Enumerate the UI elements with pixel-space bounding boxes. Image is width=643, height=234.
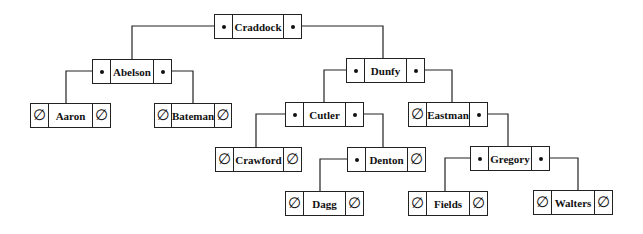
right-pointer-cell (345, 103, 363, 126)
left-pointer-cell (471, 147, 489, 170)
left-pointer-cell (215, 15, 233, 38)
null-pointer-icon: ∅ (156, 108, 169, 123)
tree-node-eastman: ∅Eastman (408, 102, 488, 127)
null-pointer-icon: ∅ (472, 196, 485, 211)
left-pointer-cell: ∅ (534, 191, 552, 214)
tree-node-fields: ∅Fields∅ (408, 191, 488, 216)
left-pointer-cell (93, 60, 111, 83)
tree-node-bateman: ∅Bateman∅ (154, 103, 232, 128)
null-pointer-icon: ∅ (218, 152, 231, 167)
left-pointer-cell: ∅ (286, 192, 304, 215)
right-pointer-cell: ∅ (594, 191, 612, 214)
right-pointer-cell: ∅ (214, 104, 231, 127)
node-key-label: Eastman (427, 103, 469, 126)
node-key-label: Dunfy (365, 59, 406, 82)
pointer-dot-icon (100, 70, 104, 74)
null-pointer-icon: ∅ (411, 196, 424, 211)
right-pointer-cell (153, 60, 171, 83)
left-pointer-cell: ∅ (409, 103, 427, 126)
tree-node-dunfy: Dunfy (346, 58, 425, 83)
tree-node-abelson: Abelson (92, 59, 172, 84)
tree-node-walters: ∅Walters∅ (533, 190, 613, 215)
null-pointer-icon: ∅ (411, 107, 424, 122)
left-pointer-cell: ∅ (155, 104, 172, 127)
null-pointer-icon: ∅ (410, 152, 423, 167)
tree-node-aaron: ∅Aaron∅ (30, 103, 111, 128)
pointer-dot-icon (161, 70, 165, 74)
null-pointer-icon: ∅ (33, 108, 46, 123)
node-key-label: Cutler (304, 103, 345, 126)
null-pointer-icon: ∅ (536, 195, 549, 210)
null-pointer-icon: ∅ (597, 195, 610, 210)
left-pointer-cell (347, 59, 365, 82)
node-key-label: Gregory (489, 147, 531, 170)
pointer-dot-icon (478, 157, 482, 161)
right-pointer-cell: ∅ (283, 148, 301, 171)
right-pointer-cell: ∅ (469, 192, 487, 215)
left-pointer-cell (286, 103, 304, 126)
null-pointer-icon: ∅ (95, 108, 108, 123)
node-key-label: Dagg (304, 192, 345, 215)
left-pointer-cell: ∅ (409, 192, 427, 215)
null-pointer-icon: ∅ (348, 196, 361, 211)
pointer-dot-icon (222, 25, 226, 29)
pointer-dot-icon (293, 113, 297, 117)
node-key-label: Walters (552, 191, 594, 214)
edge-craddock-to-abelson (132, 26, 223, 59)
null-pointer-icon: ∅ (216, 108, 229, 123)
tree-node-crawford: ∅Crawford∅ (215, 147, 302, 172)
tree-node-dagg: ∅Dagg∅ (285, 191, 364, 216)
pointer-dot-icon (414, 69, 418, 73)
pointer-dot-icon (291, 25, 295, 29)
edge-craddock-to-dunfy (293, 26, 383, 58)
right-pointer-cell (469, 103, 487, 126)
null-pointer-icon: ∅ (288, 196, 301, 211)
tree-node-craddock: Craddock (214, 14, 302, 39)
tree-node-denton: Denton∅ (347, 147, 426, 172)
node-key-label: Denton (366, 148, 407, 171)
right-pointer-cell (283, 15, 301, 38)
pointer-dot-icon (539, 157, 543, 161)
pointer-dot-icon (354, 69, 358, 73)
pointer-dot-icon (353, 113, 357, 117)
right-pointer-cell (406, 59, 424, 82)
pointer-dot-icon (355, 158, 359, 162)
null-pointer-icon: ∅ (286, 152, 299, 167)
right-pointer-cell: ∅ (345, 192, 363, 215)
right-pointer-cell: ∅ (92, 104, 110, 127)
right-pointer-cell: ∅ (407, 148, 425, 171)
tree-node-gregory: Gregory (470, 146, 550, 171)
left-pointer-cell: ∅ (31, 104, 49, 127)
node-key-label: Aaron (49, 104, 92, 127)
node-key-label: Bateman (172, 104, 214, 127)
node-key-label: Crawford (234, 148, 283, 171)
node-key-label: Craddock (233, 15, 283, 38)
pointer-dot-icon (477, 113, 481, 117)
left-pointer-cell: ∅ (216, 148, 234, 171)
right-pointer-cell (531, 147, 549, 170)
node-key-label: Abelson (111, 60, 153, 83)
tree-node-cutler: Cutler (285, 102, 364, 127)
left-pointer-cell (348, 148, 366, 171)
tree-diagram: CraddockAbelsonDunfy∅Aaron∅∅Bateman∅Cutl… (0, 0, 643, 234)
node-key-label: Fields (427, 192, 469, 215)
